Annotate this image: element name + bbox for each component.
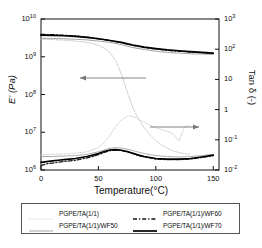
- x-tick-label: 50: [87, 174, 109, 183]
- y-tick-label-left: 106: [10, 165, 36, 174]
- chart-legend: PGPE/TA(1/1)PGPE/TA(1/1)/WF50PGPE/TA(1/1…: [21, 203, 240, 234]
- left-arrow-head-icon: [80, 76, 86, 81]
- legend-swatch-icon: [132, 209, 158, 217]
- axis-arrow-annotations: [80, 76, 199, 130]
- legend-entry: PGPE/TA(1/1)/WF60: [132, 207, 222, 219]
- y-tick-label-right: 102: [224, 44, 250, 53]
- figure-container: E' (Pa) Tan δ (-) Temperature(°C) 106107…: [0, 0, 262, 248]
- legend-label: PGPE/TA(1/1)/WF70: [163, 222, 222, 229]
- axes-frame: [41, 19, 219, 170]
- legend-label: PGPE/TA(1/1): [59, 210, 99, 217]
- y-tick-label-right: 10-2: [224, 165, 250, 174]
- y-tick-label-right: 10-1: [224, 135, 250, 144]
- x-tick-label: 0: [30, 174, 52, 183]
- x-tick-label: 100: [145, 174, 167, 183]
- y-tick-label-right: 1: [224, 105, 250, 114]
- legend-label: PGPE/TA(1/1)/WF50: [59, 222, 118, 229]
- legend-entry: PGPE/TA(1/1)/WF50: [28, 219, 118, 231]
- legend-swatch-icon: [28, 209, 54, 217]
- data-series-group: [41, 34, 213, 165]
- y-tick-label-left: 108: [10, 90, 36, 99]
- legend-label: PGPE/TA(1/1)/WF60: [163, 210, 222, 217]
- x-tick-label: 150: [202, 174, 224, 183]
- y-tick-label-left: 109: [10, 52, 36, 61]
- x-axis-title: Temperature(°C): [56, 185, 206, 196]
- y-tick-label-right: 10: [224, 74, 250, 83]
- legend-swatch-icon: [28, 221, 54, 229]
- legend-entry: PGPE/TA(1/1)/WF70: [132, 219, 222, 231]
- x-axis-title-text: Temperature(°C): [94, 185, 168, 196]
- series-line-0: [41, 39, 190, 154]
- legend-entry: PGPE/TA(1/1): [28, 207, 99, 219]
- right-arrow-head-icon: [193, 125, 199, 130]
- y-tick-label-left: 107: [10, 127, 36, 136]
- y-tick-label-left: 1010: [10, 14, 36, 23]
- y-tick-label-right: 103: [224, 14, 250, 23]
- legend-swatch-icon: [132, 221, 158, 229]
- axis-ticks: [41, 19, 219, 170]
- plot-frame: [41, 19, 219, 170]
- series-line-3: [41, 35, 213, 53]
